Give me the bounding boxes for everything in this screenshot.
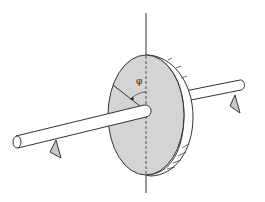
disc-on-shaft-diagram: φ bbox=[0, 0, 265, 202]
left-support bbox=[50, 140, 61, 158]
angle-label: φ bbox=[136, 76, 142, 86]
right-support bbox=[230, 95, 240, 113]
